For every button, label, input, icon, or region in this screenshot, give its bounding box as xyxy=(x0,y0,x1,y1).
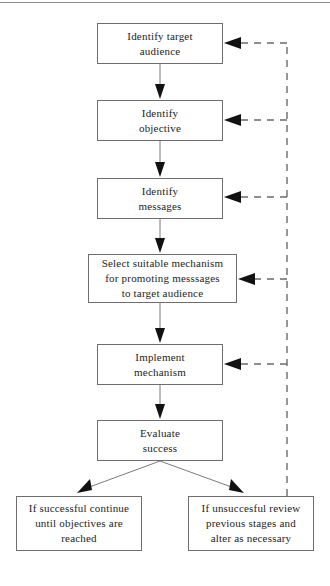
node-implement-mechanism: Implement mechanism xyxy=(97,344,223,385)
node-if-successful: If successful continue until objectives … xyxy=(16,496,142,551)
feedback-arrow-select-mechanism xyxy=(238,273,255,285)
node-line: alter as necessary xyxy=(211,531,292,546)
node-identify-target-audience: Identify target audience xyxy=(97,23,223,64)
arrow-head-objective xyxy=(155,84,165,99)
top-divider-rule xyxy=(0,2,330,3)
feedback-arrow-target-audience xyxy=(224,37,241,49)
node-identify-messages: Identify messages xyxy=(97,178,223,219)
node-evaluate-success: Evaluate success xyxy=(97,420,223,461)
node-line: Implement xyxy=(135,350,184,365)
arrow-head-implement xyxy=(155,328,165,343)
feedback-arrow-objective xyxy=(224,114,241,126)
node-if-unsuccessful: If unsuccesful review previous stages an… xyxy=(188,496,314,551)
node-line: until objectives are xyxy=(35,516,123,531)
node-line: mechanism xyxy=(134,365,186,380)
node-line: for promoting messsages xyxy=(105,271,220,286)
node-line: Identify target xyxy=(127,29,192,44)
node-line: messages xyxy=(138,199,181,214)
node-line: reached xyxy=(61,531,97,546)
arrow-head-messages xyxy=(155,162,165,177)
node-identify-objective: Identify objective xyxy=(97,100,223,141)
node-line: to target audience xyxy=(122,286,204,301)
connector-evaluate-to-successful xyxy=(84,461,160,489)
node-line: previous stages and xyxy=(206,516,296,531)
arrow-head-select xyxy=(155,238,165,253)
feedback-arrow-messages xyxy=(224,191,241,203)
node-select-suitable-mechanism: Select suitable mechanism for promoting … xyxy=(88,254,237,303)
node-line: Identify xyxy=(142,184,178,199)
node-line: audience xyxy=(140,44,181,59)
arrow-head-unsuccessful xyxy=(229,479,244,493)
flowchart-diagram: Identify target audience Identify object… xyxy=(0,0,330,586)
feedback-arrow-implement xyxy=(224,358,241,370)
node-line: Identify xyxy=(142,106,178,121)
node-line: Evaluate xyxy=(140,426,180,441)
arrow-head-successful xyxy=(77,479,92,493)
node-line: If unsuccesful review xyxy=(202,501,301,516)
connector-evaluate-to-unsuccessful xyxy=(160,461,237,489)
node-line: objective xyxy=(139,121,181,136)
node-line: If successful continue xyxy=(29,501,129,516)
node-line: success xyxy=(143,441,177,456)
arrow-head-evaluate xyxy=(155,404,165,419)
node-line: Select suitable mechanism xyxy=(102,256,224,271)
